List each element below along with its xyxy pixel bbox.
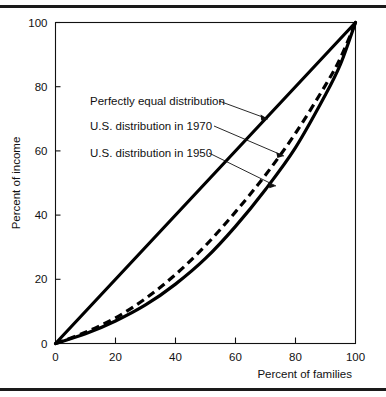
y-tick-label-40: 40 bbox=[35, 209, 48, 221]
x-tick-label-0: 0 bbox=[52, 351, 58, 363]
x-tick-label-100: 100 bbox=[346, 351, 365, 363]
series-perfectly-equal-distribution bbox=[56, 23, 356, 344]
annotation-label-1950: U.S. distribution in 1950 bbox=[90, 147, 212, 159]
y-axis-tick-labels: 020406080100 bbox=[28, 17, 47, 350]
y-tick-label-80: 80 bbox=[35, 81, 48, 93]
x-axis-tick-labels: 020406080100 bbox=[52, 351, 365, 363]
y-tick-label-100: 100 bbox=[28, 17, 47, 29]
y-tick-label-0: 0 bbox=[41, 338, 47, 350]
data-series-group bbox=[56, 23, 356, 344]
y-tick-label-60: 60 bbox=[35, 145, 48, 157]
x-tick-label-40: 40 bbox=[169, 351, 182, 363]
x-axis-ticks bbox=[116, 338, 296, 344]
y-axis-ticks bbox=[56, 23, 61, 280]
lorenz-curve-figure: 020406080100 020406080100 Percent of inc… bbox=[0, 0, 386, 397]
chart-canvas: 020406080100 020406080100 Percent of inc… bbox=[0, 8, 386, 388]
annotation-label-1970: U.S. distribution in 1970 bbox=[90, 120, 212, 132]
y-tick-label-20: 20 bbox=[35, 273, 48, 285]
annotation-label-perfectly-equal: Perfectly equal distribution bbox=[90, 95, 225, 107]
x-tick-label-20: 20 bbox=[109, 351, 122, 363]
y-axis-title: Percent of income bbox=[10, 137, 22, 230]
x-axis-title: Percent of families bbox=[257, 368, 352, 380]
leader-line-equal bbox=[219, 101, 268, 119]
x-tick-label-80: 80 bbox=[289, 351, 302, 363]
leader-line-1970 bbox=[214, 126, 284, 156]
annotation-leaders bbox=[209, 101, 284, 188]
bottom-rule bbox=[0, 388, 386, 391]
x-tick-label-60: 60 bbox=[229, 351, 242, 363]
